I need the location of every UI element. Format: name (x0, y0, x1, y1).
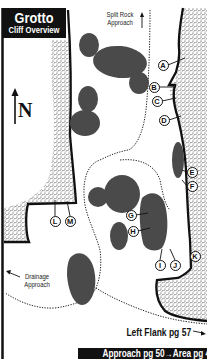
route-marker-k[interactable]: K (190, 251, 201, 262)
split-rock-line2: Approach (107, 19, 132, 26)
boulder (172, 142, 184, 178)
drainage-line1: Drainage (25, 273, 49, 280)
split-rock-arrow-icon (140, 12, 144, 28)
route-marker-g[interactable]: G (126, 210, 137, 221)
route-marker-i[interactable]: I (155, 260, 166, 271)
boulder (140, 193, 168, 250)
drainage-approach-label: Drainage Approach (23, 273, 52, 289)
cliff-overview-map (0, 0, 207, 359)
route-marker-f[interactable]: F (187, 181, 198, 192)
boulder (110, 222, 128, 250)
boulder (104, 175, 140, 213)
drainage-line2: Approach (24, 281, 49, 288)
route-marker-j[interactable]: J (170, 260, 181, 271)
map-subtitle: Cliff Overview (7, 26, 61, 35)
route-marker-d[interactable]: D (159, 115, 170, 126)
map-title: Grotto (7, 10, 61, 25)
boulder (129, 72, 149, 94)
boulder (67, 253, 95, 305)
route-marker-b[interactable]: B (149, 82, 160, 93)
approach-area-link[interactable]: Approach pg 50→Area pg 44 (78, 348, 207, 359)
boulders (67, 33, 184, 305)
route-marker-e[interactable]: E (187, 167, 198, 178)
boulder (70, 110, 100, 136)
left-flank-link[interactable]: Left Flank pg 57 (126, 327, 191, 338)
route-marker-h[interactable]: H (128, 226, 139, 237)
route-marker-c[interactable]: C (152, 96, 163, 107)
split-rock-approach-label: Split Rock Approach (103, 11, 137, 27)
left-cliff-rock (4, 40, 76, 242)
map-title-box: Grotto Cliff Overview (2, 8, 66, 38)
approach-area-text: Approach pg 50→Area pg 44 (103, 348, 207, 359)
route-marker-l[interactable]: L (50, 216, 61, 227)
split-rock-line1: Split Rock (107, 11, 134, 18)
north-label: N (18, 99, 32, 122)
drainage-arrow-icon (6, 270, 20, 277)
boulder (78, 86, 98, 112)
left-flank-arrow-icon (193, 331, 206, 336)
route-marker-m[interactable]: M (65, 216, 76, 227)
route-marker-a[interactable]: A (158, 60, 169, 71)
